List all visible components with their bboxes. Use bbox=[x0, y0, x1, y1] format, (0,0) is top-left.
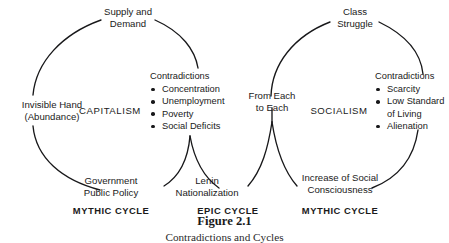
capitalism-bottom-label-line2: Public Policy bbox=[84, 187, 138, 198]
bullet-icon bbox=[151, 88, 155, 92]
socialism-bottom-label-line1: Increase of Social bbox=[302, 172, 378, 183]
bullet-icon bbox=[151, 112, 155, 116]
capitalism-center-label-text: CAPITALISM bbox=[79, 105, 141, 116]
socialism-top-label-line2: Struggle bbox=[337, 18, 373, 29]
socialism-contradictions-items: Scarcity Low Standard of Living Alienati… bbox=[375, 83, 444, 133]
socialism-arc-bottom-right bbox=[372, 130, 418, 188]
capitalism-arc-top-right bbox=[155, 20, 198, 68]
epic-label: Lenin Nationalization bbox=[176, 175, 239, 198]
socialism-arc-top-right bbox=[379, 22, 423, 74]
socialism-left-label-line1: From Each bbox=[249, 90, 296, 101]
socialism-bottom-label-line2: Consciousness bbox=[307, 184, 372, 195]
epic-arc-right-descent bbox=[272, 122, 297, 186]
capitalism-bottom-label: Government Public Policy bbox=[84, 175, 138, 198]
list-item: Unemployment bbox=[150, 95, 225, 107]
socialism-bottom-label: Increase of Social Consciousness bbox=[302, 172, 378, 195]
capitalism-center-label: CAPITALISM bbox=[79, 105, 141, 117]
capitalism-left-label-line2: (Abundance) bbox=[25, 111, 80, 122]
figure-caption-subtitle: Contradictions and Cycles bbox=[0, 231, 449, 243]
capitalism-bottom-label-line1: Government bbox=[85, 175, 138, 186]
list-item-continuation: of Living bbox=[375, 108, 444, 120]
capitalism-top-label: Supply and Demand bbox=[104, 6, 152, 29]
figure-caption-title: Figure 2.1 bbox=[0, 214, 449, 229]
capitalism-left-label-line1: Invisible Hand bbox=[22, 99, 82, 110]
socialism-arc-left-descent bbox=[248, 122, 272, 186]
bullet-icon bbox=[376, 88, 380, 92]
capitalism-top-label-line2: Demand bbox=[110, 18, 146, 29]
bullet-icon bbox=[151, 125, 155, 129]
list-item: Concentration bbox=[150, 83, 225, 95]
socialism-top-label-line1: Class bbox=[343, 6, 367, 17]
list-item: Alienation bbox=[375, 120, 444, 132]
socialism-contradictions-heading: Contradictions bbox=[375, 70, 444, 82]
capitalism-contradictions-list: Contradictions Concentration Unemploymen… bbox=[150, 70, 225, 133]
capitalism-arc-top-left bbox=[33, 20, 101, 95]
bullet-icon bbox=[151, 100, 155, 104]
socialism-center-label: SOCIALISM bbox=[310, 105, 367, 117]
socialism-contradictions-list: Contradictions Scarcity Low Standard of … bbox=[375, 70, 444, 133]
capitalism-top-label-line1: Supply and bbox=[104, 6, 152, 17]
list-item: Social Deficits bbox=[150, 120, 225, 132]
bullet-icon bbox=[376, 125, 380, 129]
capitalism-contradictions-items: Concentration Unemployment Poverty Socia… bbox=[150, 83, 225, 133]
capitalism-contradictions-heading: Contradictions bbox=[150, 70, 225, 82]
bullet-icon bbox=[376, 100, 380, 104]
epic-label-line1: Lenin bbox=[195, 175, 218, 186]
socialism-top-label: Class Struggle bbox=[337, 6, 373, 29]
list-item: Scarcity bbox=[375, 83, 444, 95]
socialism-arc-top-left bbox=[271, 22, 330, 96]
capitalism-left-label: Invisible Hand (Abundance) bbox=[22, 99, 82, 122]
socialism-left-label-line2: to Each bbox=[256, 102, 289, 113]
epic-label-line2: Nationalization bbox=[176, 187, 239, 198]
socialism-center-label-text: SOCIALISM bbox=[310, 105, 367, 116]
socialism-left-label: From Each to Each bbox=[249, 90, 296, 113]
list-item: Poverty bbox=[150, 108, 225, 120]
list-item: Low Standard bbox=[375, 95, 444, 107]
